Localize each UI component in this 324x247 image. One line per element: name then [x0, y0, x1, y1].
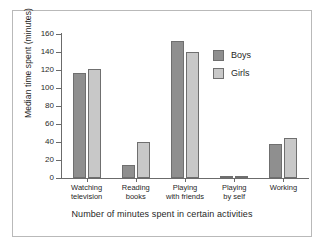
x-axis-tick [234, 178, 235, 182]
y-axis-tick [56, 106, 61, 107]
y-axis-tick [56, 160, 61, 161]
y-axis-tick [56, 142, 61, 143]
bar-group [62, 34, 111, 178]
y-axis-tick-label: 100 [12, 84, 54, 92]
bar-group-bars [111, 34, 160, 178]
legend-label-girls: Girls [231, 68, 250, 79]
bar-group [111, 34, 160, 178]
y-axis-tick-label: 120 [12, 66, 54, 74]
bar-group-bars [160, 34, 209, 178]
x-axis-label-line: Working [253, 183, 313, 192]
bar-group-bars [62, 34, 111, 178]
x-axis-title: Number of minutes spent in certain activ… [20, 209, 304, 219]
bar-girls [186, 52, 199, 178]
y-axis-tick [56, 52, 61, 53]
y-axis-tick [56, 124, 61, 125]
y-axis-tick-label: 40 [12, 138, 54, 146]
bar-girls [235, 176, 248, 178]
bar-group-bars [259, 34, 308, 178]
y-axis-tick-label: 160 [12, 30, 54, 38]
legend-swatch-boys-icon [213, 50, 224, 61]
y-axis-tick [56, 70, 61, 71]
chart-figure: 020406080100120140160 Median time spent … [0, 0, 324, 247]
x-axis-category-label: Working [253, 183, 313, 192]
y-axis-tick-label: 80 [12, 102, 54, 110]
y-axis-tick-label: 20 [12, 156, 54, 164]
x-axis-label-line: by self [204, 192, 264, 201]
bar-boys [73, 73, 86, 178]
y-axis-tick [56, 178, 61, 179]
x-axis-tick [185, 178, 186, 182]
bar-boys [220, 176, 233, 178]
y-axis-title: Median time spent (minutes) [23, 0, 33, 143]
bar-boys [269, 144, 282, 178]
y-axis-tick [56, 88, 61, 89]
bar-girls [88, 69, 101, 178]
bar-group [259, 34, 308, 178]
legend-label-boys: Boys [231, 50, 251, 61]
legend-swatch-girls-icon [213, 68, 224, 79]
x-axis-tick [87, 178, 88, 182]
legend-item-girls: Girls [213, 68, 251, 79]
bar-girls [284, 138, 297, 179]
y-axis-tick-label: 60 [12, 120, 54, 128]
y-axis-tick-label: 0 [12, 174, 54, 182]
chart-legend: Boys Girls [213, 50, 251, 86]
bar-boys [122, 165, 135, 179]
y-axis-tick [56, 34, 61, 35]
bar-girls [137, 142, 150, 178]
bar-boys [171, 41, 184, 178]
bar-group [160, 34, 209, 178]
legend-item-boys: Boys [213, 50, 251, 61]
x-axis-tick [136, 178, 137, 182]
y-axis-tick-label: 140 [12, 48, 54, 56]
x-axis-tick [283, 178, 284, 182]
